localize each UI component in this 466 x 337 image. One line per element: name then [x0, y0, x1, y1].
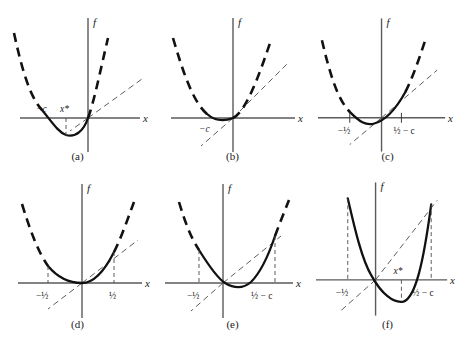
curve-solid: [48, 252, 114, 283]
tick-label-neg-half: −½: [36, 291, 48, 301]
figure-container: f x −c x* (a) f x −c (b): [0, 0, 466, 337]
f-axis-label: f: [228, 182, 233, 194]
panel-f-caption: (f): [310, 318, 465, 330]
tick-label-neg-half: −½: [336, 288, 348, 298]
panel-f-plot: f x −½ x* ½ − c: [310, 168, 465, 336]
curve-dashed-right: [114, 202, 134, 252]
panel-b-caption: (b): [155, 150, 310, 162]
tick-label-x-star: x*: [392, 266, 402, 276]
panel-a: f x −c x* (a): [0, 0, 155, 168]
panel-c: f x −½ ½ − c (c): [310, 0, 465, 168]
tick-label-half-minus-c: ½ − c: [251, 291, 272, 301]
panel-a-caption: (a): [0, 150, 155, 162]
curve-solid: [207, 114, 233, 120]
panel-f: f x −½ x* ½ − c (f): [310, 168, 465, 336]
curve-dashed-left: [322, 40, 350, 112]
tick-label-neg-half: −½: [187, 291, 199, 301]
f-axis-label: f: [387, 16, 392, 28]
reference-line: [382, 70, 438, 118]
curve-dashed-left: [22, 204, 48, 266]
reference-line-lower: [48, 283, 82, 309]
tick-label-half-minus-c: ½ − c: [412, 288, 433, 298]
x-axis-label: x: [144, 277, 150, 289]
f-axis-label: f: [93, 16, 98, 28]
curve-dashed-right: [233, 40, 271, 118]
f-axis-label: f: [381, 180, 386, 192]
f-axis-label: f: [87, 182, 92, 194]
f-axis-label: f: [238, 16, 243, 28]
x-axis-label: x: [449, 274, 455, 286]
x-axis-label: x: [297, 112, 303, 124]
tick-label-half: ½: [109, 291, 116, 301]
panel-e-plot: f x −½ ½ − c: [155, 168, 310, 336]
panel-a-plot: f x −c x*: [0, 0, 155, 168]
reference-line: [376, 200, 438, 279]
panel-c-plot: f x −½ ½ − c: [310, 0, 465, 168]
x-axis-label: x: [295, 277, 301, 289]
tick-label-x-star: x*: [59, 104, 69, 114]
curve-dashed-left: [179, 202, 199, 250]
panel-d-plot: f x −½ ½: [0, 168, 155, 336]
panel-e: f x −½ ½ − c (e): [155, 168, 310, 336]
curve-dashed-right: [275, 200, 289, 236]
panel-d-caption: (d): [0, 318, 155, 330]
tick-label-neg-half: −½: [338, 126, 350, 136]
tick-label-half-minus-c: ½ − c: [393, 126, 414, 136]
x-axis-label: x: [142, 112, 148, 124]
curve-dashed-right: [405, 40, 425, 92]
curve-solid: [199, 236, 275, 287]
tick-label-neg-c: −c: [199, 124, 210, 134]
panel-e-caption: (e): [155, 318, 310, 330]
tick-label-neg-c: −c: [36, 104, 47, 114]
curve-dashed-left: [14, 33, 42, 110]
reference-line: [233, 62, 289, 118]
curve-solid: [350, 92, 406, 124]
panel-c-caption: (c): [310, 150, 465, 162]
curve-dashed-left: [173, 38, 207, 114]
panel-b: f x −c (b): [155, 0, 310, 168]
panel-b-plot: f x −c: [155, 0, 310, 168]
panel-d: f x −½ ½ (d): [0, 168, 155, 336]
curve-solid: [348, 198, 431, 302]
x-axis-label: x: [447, 112, 453, 124]
